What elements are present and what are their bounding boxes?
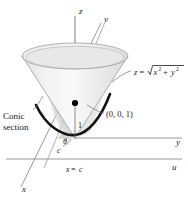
point-label: (0, 0, 1) <box>106 109 133 119</box>
equation-lhs: z <box>133 67 138 77</box>
x-axis-label: x <box>21 184 26 194</box>
equation-radicand-y: y <box>170 67 175 77</box>
figure-canvas: z v y u x z = x 2 + y 2 (0, 0, 1) Conic … <box>0 0 188 199</box>
plane-label-equals: = <box>71 165 76 174</box>
plane-label-lhs: x <box>65 165 70 174</box>
angle-label: θ <box>63 137 67 146</box>
equation-radicand-y-sup: 2 <box>176 66 179 72</box>
equation-plus: + <box>163 67 168 77</box>
y-axis-label: y <box>175 137 180 147</box>
cone-equation: z = x 2 + y 2 <box>133 66 184 78</box>
point-0-0-1-marker <box>72 100 78 106</box>
equation-radicand-x: x <box>153 67 158 77</box>
u-axis-label: u <box>172 162 177 172</box>
equation-radicand-x-sup: 2 <box>159 66 162 72</box>
height-label: 1 <box>78 121 82 130</box>
conic-caption-line-2: section <box>3 122 29 132</box>
equation-equals: = <box>140 67 145 77</box>
plane-label-rhs: c <box>79 165 83 174</box>
z-axis-label: z <box>78 6 83 16</box>
plane-label: x = c <box>65 165 83 174</box>
conic-caption-line-1: Conic <box>3 111 25 121</box>
v-axis-label: v <box>104 14 108 24</box>
conic-section-figure: z v y u x z = x 2 + y 2 (0, 0, 1) Conic … <box>0 0 188 199</box>
distance-label: c <box>57 146 61 155</box>
